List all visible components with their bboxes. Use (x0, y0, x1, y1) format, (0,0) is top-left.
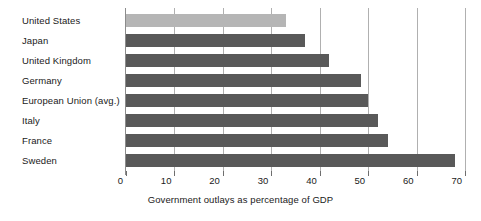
bar-row (126, 31, 465, 51)
category-label: European Union (avg.) (0, 91, 118, 111)
tick-mark (174, 171, 175, 176)
x-axis-title: Government outlays as percentage of GDP (0, 194, 481, 205)
tick-label: 20 (190, 175, 220, 186)
tick-label: 10 (141, 175, 171, 186)
bar (126, 54, 329, 67)
tick-mark (271, 171, 272, 176)
category-label: Sweden (0, 151, 118, 171)
category-axis: United StatesJapanUnited KingdomGermanyE… (0, 11, 120, 171)
category-label: Japan (0, 31, 118, 51)
tick-mark (417, 171, 418, 176)
category-label: Germany (0, 71, 118, 91)
category-label: France (0, 131, 118, 151)
bar-row (126, 91, 465, 111)
tick-mark (368, 171, 369, 176)
tick-mark (465, 171, 466, 176)
tick-mark (126, 171, 127, 176)
category-label: United Kingdom (0, 51, 118, 71)
tick-mark (320, 171, 321, 176)
category-label: Italy (0, 111, 118, 131)
plot-area (126, 8, 465, 171)
tick-label: 0 (93, 175, 123, 186)
tick-label: 70 (432, 175, 462, 186)
bar (126, 74, 361, 87)
bar-chart-figure: United StatesJapanUnited KingdomGermanyE… (0, 0, 481, 221)
tick-label: 60 (384, 175, 414, 186)
category-label: United States (0, 11, 118, 31)
bar-row (126, 51, 465, 71)
bar (126, 114, 378, 127)
bar-row (126, 151, 465, 171)
bar (126, 14, 286, 27)
tick-mark (223, 171, 224, 176)
tick-label: 40 (287, 175, 317, 186)
bar-row (126, 11, 465, 31)
bar (126, 154, 455, 167)
tick-label: 30 (238, 175, 268, 186)
tick-label: 50 (335, 175, 365, 186)
bar-row (126, 71, 465, 91)
bar-row (126, 131, 465, 151)
bar (126, 34, 305, 47)
value-axis: 010203040506070 (126, 171, 471, 191)
bar-row (126, 111, 465, 131)
gridline (465, 8, 466, 171)
bar (126, 134, 388, 147)
bar (126, 94, 368, 107)
